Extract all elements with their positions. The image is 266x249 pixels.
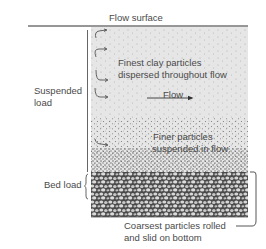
bed-load-bracket [85,174,89,199]
bed-load-gravel [91,172,248,217]
coarsest-particles-label-line2: and slid on bottom [124,232,226,244]
flow-label: Flow [163,89,183,100]
finest-particles-label-line2: dispersed throughout flow [118,69,227,81]
coarsest-particles-label: Coarsest particles rolled and slid on bo… [124,220,226,244]
finest-particles-label-line1: Finest clay particles [118,57,227,69]
suspended-load-label: Suspended load [34,85,82,109]
flow-surface-label: Flow surface [109,12,163,23]
suspended-load-label-line1: Suspended [34,85,82,97]
finer-particles-label: Finer particles suspended in flow [152,131,228,155]
coarsest-particles-label-line1: Coarsest particles rolled [124,220,226,232]
finer-particles-label-line1: Finer particles [152,131,228,143]
finer-particles-label-line2: suspended in flow [152,143,228,155]
sediment-transport-diagram [0,0,266,249]
bed-load-label: Bed load [44,179,82,190]
suspended-load-label-line2: load [34,97,82,109]
finest-particles-label: Finest clay particles dispersed througho… [118,57,227,81]
